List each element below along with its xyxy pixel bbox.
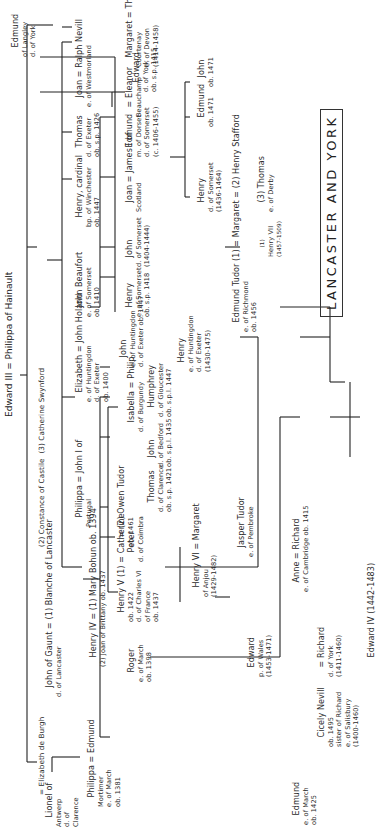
node-gaunt-wives: (2) Constance of Castile (3) Catherine S… (38, 368, 46, 547)
node-edward-york: Edwardd. of Yorkob. s.p. 1415 (125, 48, 175, 92)
node-edmund-of-langley: Edmundof Langleyd. of York (4, 14, 54, 57)
node-henry-vi: Henry VI = Margaretof Anjou(1429-1482) (185, 503, 235, 597)
node-john-somerset: Johnd. of Somerset(1404-1444) (118, 217, 168, 267)
node-edward-wales: Edwardp. of Wales(1453-1471) (240, 635, 290, 677)
node-john-beaufort: John Beauforte. of Somersetob. 1410 (68, 252, 118, 317)
node-thomas-clarence: Thomasd. of Clarenceob. s.p. 1421 (140, 465, 190, 512)
node-elizabeth-de-burgh: = Elizabeth de Burgh (38, 717, 46, 795)
node-philippa-john-i: Philippa = John I ofPortugal (68, 439, 110, 527)
node-edward-iv: Edward IV (1442-1483) (360, 563, 385, 667)
node-edmund-1471: Edmundob. 1471 (190, 84, 232, 127)
genealogy-chart: Edward III = Philippa of Hainault Lionel… (0, 0, 390, 837)
node-jasper-tudor: Jasper Tudore. of Pembroke (230, 497, 272, 557)
root-couple: Edward III = Philippa of Hainault (4, 272, 14, 417)
node-henry-somerset-1464: Henryd. of Somerset(1436-1464) (190, 162, 240, 212)
node-richard-york: = Richardd. of York(1411-1460) (310, 627, 360, 677)
node-cicely-nevill: Cicely Nevillob. 1495sister of Richarde.… (310, 687, 377, 747)
node-thomas-derby: (3) Thomase. of Derby (250, 156, 292, 212)
node-peter-coimbra: Peterd. of Coimbra (120, 516, 162, 562)
node-john-1471: Johnob. 1471 (190, 57, 232, 87)
node-henry-exeter: Henrye. of Huntingdond. of Exeter(1430-1… (170, 315, 229, 372)
node-henry-somerset: Henrye. of Somersetob. s.p. 1418 (118, 267, 168, 317)
node-philippa-edmund-mortimer: Philippa = EdmundMortimere. of Marchob. … (80, 719, 139, 807)
node-henry-cardinal: Henry, cardinalbp. of Winchesterob. 1447 (68, 155, 118, 227)
chart-title: LANCASTER AND YORK (320, 109, 343, 317)
node-thomas-exeter: Thomasd. of Exeterob. s.p. 1426 (68, 113, 118, 157)
node-anne-richard: Anne = Richarde. of Cambridge ob. 1415 (285, 505, 327, 592)
node-roger: Rogere. of Marchob. 1398 (120, 644, 170, 682)
node-edmund-march: Edmunde. of Marchob. 1425 (285, 782, 335, 825)
node-joan-ralph-nevill: Joan = Ralph Neville. of Westmorland (68, 19, 110, 107)
node-john-bedford: Johnd. of Bedfordob. s.p.l. 1435 (140, 418, 190, 467)
node-henry-vii: (1)Henry VII(1457-1509) (250, 221, 300, 257)
